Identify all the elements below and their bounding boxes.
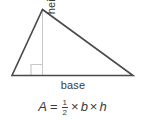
- base-label: base: [40, 78, 106, 92]
- triangle-outline: [12, 10, 133, 76]
- right-angle-icon: [31, 65, 42, 76]
- fraction-denominator: 2: [62, 109, 68, 117]
- formula-times-second: ×: [90, 99, 98, 114]
- formula-times-first: ×: [71, 99, 79, 114]
- formula-base-variable: b: [81, 99, 88, 114]
- height-label: height: [44, 0, 58, 27]
- formula-height-variable: h: [99, 99, 106, 114]
- triangle-area-figure: height base A=12×b×h: [0, 0, 145, 121]
- area-formula: A=12×b×h: [0, 99, 145, 117]
- formula-one-half-fraction: 12: [62, 99, 68, 117]
- formula-area-variable: A: [38, 99, 47, 114]
- formula-equals-sign: =: [50, 99, 58, 114]
- fraction-numerator: 1: [62, 99, 68, 107]
